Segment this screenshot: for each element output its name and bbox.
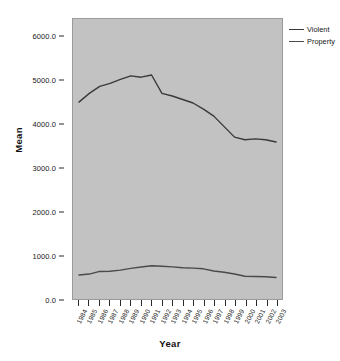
x-tick-mark	[183, 300, 184, 306]
x-tick-mark	[214, 300, 215, 306]
y-tick-label: 3000.0	[32, 163, 56, 172]
y-axis: 0.01000.02000.03000.04000.05000.06000.0	[0, 18, 64, 300]
y-tick-mark	[59, 79, 64, 80]
x-tick-mark	[204, 300, 205, 306]
y-axis-title: Mean	[13, 127, 24, 152]
x-tick-mark	[109, 300, 110, 306]
y-tick-mark	[59, 167, 64, 168]
y-tick-label: 6000.0	[32, 31, 56, 40]
y-tick-label: 4000.0	[32, 119, 56, 128]
legend-label: Violent	[307, 25, 330, 34]
x-tick-mark	[267, 300, 268, 306]
plot-svg	[73, 19, 282, 299]
y-tick-mark	[59, 211, 64, 212]
y-tick-label: 2000.0	[32, 207, 56, 216]
y-tick-mark	[59, 300, 64, 301]
x-tick-mark	[235, 300, 236, 306]
x-tick-mark	[172, 300, 173, 306]
x-axis: 1984198519861987198819891990199119921993…	[72, 300, 283, 340]
y-tick-mark	[59, 123, 64, 124]
y-tick-label: 5000.0	[32, 75, 56, 84]
x-tick-mark	[151, 300, 152, 306]
x-tick-mark	[99, 300, 100, 306]
x-tick-mark	[130, 300, 131, 306]
x-tick-mark	[277, 300, 278, 306]
x-tick-mark	[246, 300, 247, 306]
series-line-violent	[79, 75, 276, 142]
x-tick-mark	[193, 300, 194, 306]
x-tick-mark	[120, 300, 121, 306]
y-tick-mark	[59, 35, 64, 36]
x-axis-title: Year	[0, 338, 340, 349]
legend-line-icon	[289, 41, 304, 42]
x-tick-mark	[225, 300, 226, 306]
plot-area	[72, 18, 283, 300]
legend-label: Property	[307, 37, 335, 46]
series-line-property	[79, 266, 276, 278]
x-tick-mark	[141, 300, 142, 306]
y-tick-label: 1000.0	[32, 251, 56, 260]
y-tick-mark	[59, 255, 64, 256]
line-chart: 0.01000.02000.03000.04000.05000.06000.0 …	[0, 0, 340, 361]
x-tick-mark	[88, 300, 89, 306]
legend-item[interactable]: Property	[289, 36, 340, 47]
x-tick-mark	[78, 300, 79, 306]
legend-line-icon	[289, 29, 304, 30]
y-tick-label: 0.0	[45, 296, 56, 305]
chart-legend: ViolentProperty	[289, 24, 340, 48]
x-tick-mark	[256, 300, 257, 306]
x-tick-mark	[162, 300, 163, 306]
legend-item[interactable]: Violent	[289, 24, 340, 35]
